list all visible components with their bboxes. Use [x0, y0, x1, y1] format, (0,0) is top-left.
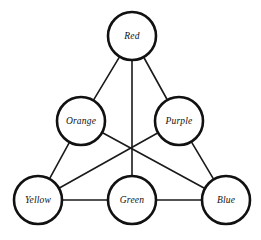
node-yellow[interactable]: Yellow — [14, 176, 62, 224]
edge-red-purple — [144, 57, 168, 100]
edge-red-orange — [93, 57, 119, 101]
node-label-red: Red — [123, 31, 139, 41]
node-label-blue: Blue — [217, 195, 235, 205]
node-label-green: Green — [120, 195, 144, 205]
node-orange[interactable]: Orange — [57, 97, 105, 145]
node-label-purple: Purple — [164, 116, 192, 126]
edge-purple-blue — [191, 142, 213, 180]
node-blue[interactable]: Blue — [202, 176, 250, 224]
graph-canvas: RedOrangePurpleYellowGreenBlue — [0, 0, 261, 240]
node-purple[interactable]: Purple — [155, 97, 203, 145]
node-label-yellow: Yellow — [25, 195, 52, 205]
node-green[interactable]: Green — [108, 176, 156, 224]
node-label-orange: Orange — [66, 116, 96, 126]
node-red[interactable]: Red — [108, 12, 156, 60]
edge-orange-yellow — [49, 142, 69, 179]
color-graph-diagram: RedOrangePurpleYellowGreenBlue — [0, 0, 261, 240]
